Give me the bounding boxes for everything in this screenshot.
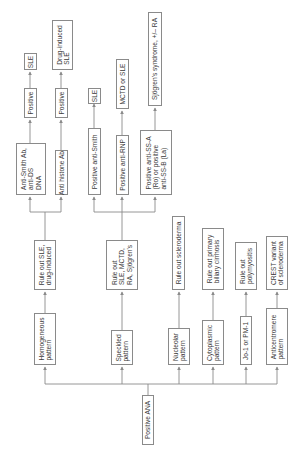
positive-box-2: Positive [55,88,68,118]
cytoplasmic-pattern-box: Cytoplasmic pattern [202,320,224,365]
ruleout-sle-mctd-box: Rule out SLE, MCTD, RA, Sjögren's [106,240,138,290]
test-label: Anti histone Ab [58,151,65,195]
positive-anti-smith-box: Positive anti-Smith [88,128,101,195]
pattern-label: Nucleolar pattern [172,333,187,361]
ruleout-label: Rule out scleroderma [175,222,182,285]
result-label: MCTD or SLE [119,63,126,104]
positive-label: Positive [27,91,34,114]
test-label: Anti-Smith Ab, anti-DS DNA [20,148,42,190]
ruleout-label: Rule out polymyositis [239,248,254,284]
positive-box-1: Positive [24,88,37,118]
crest-variant-box: CREST variant of scleroderma [266,236,288,290]
result-mctd-or-sle: MCTD or SLE [116,59,129,109]
anticentromere-pattern-box: Anticentromere pattern [266,308,288,365]
positive-label: Positive [58,91,65,114]
positive-anti-rnp-box: Positive anti-RNP [116,135,129,195]
ruleout-polymyositis-box: Rule out polymyositis [235,242,257,290]
positive-ana-label: Positive ANA [144,401,151,439]
positive-ana-box: Positive ANA [142,395,154,445]
result-drug-induced-sle: Drug-induced SLE [52,20,73,70]
pattern-label: Homogeneous pattern [38,318,53,361]
nucleolar-pattern-box: Nucleolar pattern [168,328,190,365]
homogeneous-pattern-box: Homogeneous pattern [34,313,56,365]
test-label: Positive anti-SS-A (Ro) or positive anti… [145,136,167,189]
ruleout-label: Rule out SLE, MCTD, RA, Sjögren's [111,245,133,285]
anti-histone-box: Anti histone Ab [55,150,68,195]
ruleout-pbc-box: Rule out primary biliary cirrhosis [202,228,224,290]
ruleout-label: Rule out SLE, drug-induced [38,245,53,286]
result-label: Drug-induced SLE [55,25,70,65]
result-sle-2: SLE [88,88,101,104]
result-label: Sjögren's syndrome, +/– RA [151,18,158,100]
test-label: Positive anti-Smith [91,134,98,189]
ruleout-sle-drug-box: Rule out SLE, drug-induced [34,240,56,290]
result-label: SLE [91,90,98,102]
result-sle-1: SLE [24,53,37,70]
jo1-pm1-box: Jo-1 or PM-1 [240,316,252,365]
ruleout-label: Rule out primary biliary cirrhosis [206,235,221,283]
pattern-label: Cytoplasmic pattern [206,325,221,361]
positive-anti-ssa-ssb-box: Positive anti-SS-A (Ro) or positive anti… [140,130,172,195]
result-label: SLE [27,55,34,67]
test-label: Positive anti-RNP [119,139,126,191]
pattern-label: Speckled pattern [115,334,130,361]
result-sjogrens: Sjögren's syndrome, +/– RA [148,12,162,106]
anti-smith-dsdna-box: Anti-Smith Ab, anti-DS DNA [16,143,46,195]
ruleout-scleroderma-box: Rule out scleroderma [172,216,185,290]
speckled-pattern-box: Speckled pattern [111,330,133,365]
pattern-label: Anticentromere pattern [270,314,285,359]
ruleout-label: CREST variant of scleroderma [270,241,285,285]
pattern-label: Jo-1 or PM-1 [242,321,249,359]
